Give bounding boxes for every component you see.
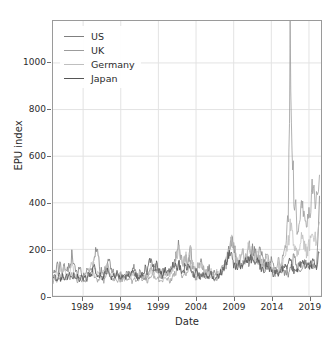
legend-item: Germany <box>64 57 135 71</box>
legend-item: UK <box>64 43 135 57</box>
x-tick-mark <box>234 297 235 301</box>
legend-line-icon <box>64 78 84 79</box>
x-tick-label: 1994 <box>109 302 132 312</box>
epu-index-chart-figure: 02004006008001000 Date EPU index USUKGer… <box>0 0 334 346</box>
legend-line-icon <box>64 36 84 37</box>
y-tick-label: 200 <box>29 245 46 255</box>
y-tick-mark <box>47 250 51 251</box>
x-tick-mark <box>120 297 121 301</box>
x-tick-mark <box>158 297 159 301</box>
x-tick-mark <box>272 297 273 301</box>
y-tick-label: 600 <box>29 151 46 161</box>
y-tick-mark <box>47 109 51 110</box>
y-axis-label: EPU index <box>13 66 24 226</box>
x-tick-label: 2014 <box>260 302 283 312</box>
legend-label: Japan <box>91 73 118 84</box>
x-axis-label: Date <box>52 316 322 327</box>
legend-label: Germany <box>91 59 135 70</box>
legend-item: Japan <box>64 71 135 85</box>
legend-label: UK <box>91 45 104 56</box>
y-tick-mark <box>47 203 51 204</box>
x-tick-label: 2004 <box>185 302 208 312</box>
y-tick-label: 400 <box>29 198 46 208</box>
x-tick-label: 2019 <box>298 302 321 312</box>
x-tick-mark <box>82 297 83 301</box>
x-tick-label: 1999 <box>147 302 170 312</box>
chart-legend: USUKGermanyJapan <box>60 26 141 88</box>
legend-line-icon <box>64 64 84 65</box>
y-tick-label: 800 <box>29 104 46 114</box>
x-tick-mark <box>310 297 311 301</box>
x-tick-label: 2009 <box>223 302 246 312</box>
y-tick-label: 0 <box>40 292 46 302</box>
y-tick-mark <box>47 297 51 298</box>
y-tick-label: 1000 <box>23 57 46 67</box>
legend-line-icon <box>64 50 84 51</box>
x-tick-label: 1989 <box>71 302 94 312</box>
legend-label: US <box>91 31 104 42</box>
legend-item: US <box>64 29 135 43</box>
y-tick-mark <box>47 156 51 157</box>
x-tick-mark <box>196 297 197 301</box>
y-tick-mark <box>47 62 51 63</box>
